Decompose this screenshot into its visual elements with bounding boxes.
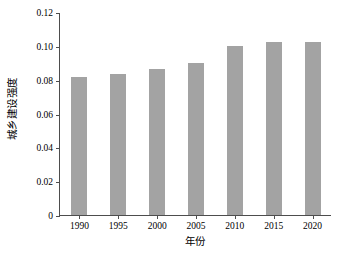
bar-chart: 城乡建设强度 0.120.100.080.060.040.020 1990199… [0, 0, 341, 257]
x-tick [79, 215, 80, 219]
bar [149, 69, 165, 215]
x-tick-label: 2015 [264, 221, 283, 231]
y-axis-title: 城乡建设强度 [2, 0, 20, 216]
x-tick [313, 215, 314, 219]
x-tick-label: 2010 [225, 221, 244, 231]
y-tick-label: 0.06 [36, 110, 53, 120]
y-tick-label: 0.04 [36, 143, 53, 153]
y-tick-label: 0.08 [36, 76, 53, 86]
x-tick [118, 215, 119, 219]
x-tick-label: 2000 [148, 221, 167, 231]
x-tick-label: 2020 [303, 221, 322, 231]
bar [71, 77, 87, 215]
y-axis-title-text: 城乡建设强度 [4, 77, 19, 140]
x-tick-label: 1995 [109, 221, 128, 231]
bar [227, 46, 243, 215]
y-tick [56, 81, 60, 82]
y-tick [56, 182, 60, 183]
x-axis-title: 年份 [59, 233, 331, 248]
x-tick-label: 1990 [70, 221, 89, 231]
bar [266, 42, 282, 215]
bar [110, 74, 126, 215]
y-tick [56, 13, 60, 14]
x-tick [157, 215, 158, 219]
plot-area: 0.120.100.080.060.040.020 19901995200020… [59, 13, 331, 216]
x-tick [235, 215, 236, 219]
bar [305, 42, 321, 215]
y-tick-label: 0.10 [36, 42, 53, 52]
y-tick-label: 0.12 [36, 8, 53, 18]
y-tick [56, 47, 60, 48]
x-tick [274, 215, 275, 219]
y-tick-label: 0 [48, 211, 53, 221]
y-tick [56, 216, 60, 217]
bar [188, 63, 204, 215]
x-tick [196, 215, 197, 219]
y-tick-label: 0.02 [36, 177, 53, 187]
y-tick [56, 148, 60, 149]
x-tick-label: 2005 [187, 221, 206, 231]
y-tick [56, 115, 60, 116]
